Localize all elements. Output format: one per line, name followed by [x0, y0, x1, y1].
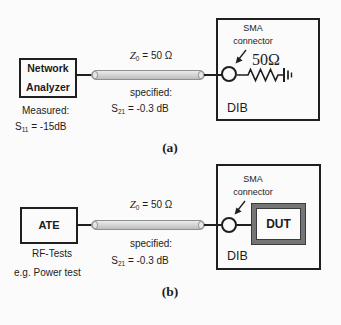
s11-value: = -15dB — [31, 121, 66, 132]
wire-ate-to-coax — [76, 224, 92, 226]
dut-label: DUT — [266, 217, 291, 231]
s11-subscript: 11 — [22, 126, 29, 133]
ate-box: ATE — [20, 207, 78, 244]
coax-cable-symbol-a — [91, 70, 205, 80]
s21-symbol-a: S — [111, 103, 118, 114]
sma-connector-symbol-b — [221, 217, 237, 233]
coax-left-ferrule-icon — [92, 71, 98, 79]
s21-subscript-b: 21 — [118, 260, 125, 267]
impedance-label-b: Z0 = 50 Ω — [120, 198, 182, 211]
figure-canvas: Network Analyzer DIB SMA connector 50Ω Z… — [0, 0, 341, 325]
network-analyzer-label-line2: Analyzer — [26, 78, 70, 97]
network-analyzer-box: Network Analyzer — [19, 58, 77, 98]
impedance-label-a: Z0 = 50 Ω — [120, 49, 182, 62]
s21-label-a: S21 = -0.3 dB — [100, 103, 180, 115]
dib-label-b: DIB — [227, 250, 248, 262]
dut-box: DUT — [252, 204, 305, 244]
resistor-and-ground-symbol — [237, 65, 297, 85]
impedance-subscript-b: 0 — [136, 204, 140, 211]
impedance-value-a: = 50 Ω — [142, 50, 172, 61]
caption-b: (b) — [148, 284, 192, 300]
coax-cable-symbol-b — [91, 220, 205, 230]
dib-label-a: DIB — [227, 102, 248, 114]
s21-value-b: = -0.3 dB — [128, 255, 169, 266]
s11-label: S11 = -15dB — [15, 121, 67, 133]
measured-label: Measured: — [22, 105, 69, 117]
impedance-value-b: = 50 Ω — [142, 199, 172, 210]
callout-arrow-icon-b — [233, 200, 247, 216]
impedance-subscript-a: 0 — [136, 55, 140, 62]
wire-coax-to-sma-b — [204, 224, 222, 226]
sma-callout-line2-a: connector — [226, 36, 280, 47]
rf-tests-label: RF-Tests — [32, 248, 72, 260]
ate-label: ATE — [38, 216, 59, 235]
sma-callout-line1-b: SMA — [238, 174, 268, 185]
specified-label-a: specified: — [120, 87, 182, 99]
sma-connector-symbol-a — [221, 66, 237, 82]
caption-a: (a) — [148, 140, 192, 156]
s21-subscript-a: 21 — [118, 108, 125, 115]
s11-symbol: S — [15, 121, 22, 132]
wire-coax-to-sma-a — [204, 74, 222, 76]
network-analyzer-label-line1: Network — [27, 59, 68, 78]
wire-analyzer-to-coax — [76, 74, 92, 76]
coax-left-ferrule-icon-b — [92, 221, 98, 229]
sma-callout-line2-b: connector — [226, 187, 280, 198]
s21-label-b: S21 = -0.3 dB — [100, 255, 180, 267]
specified-label-b: specified: — [120, 238, 182, 250]
power-test-example-label: e.g. Power test — [14, 267, 81, 279]
wire-sma-to-dut — [235, 224, 253, 226]
s21-value-a: = -0.3 dB — [128, 103, 169, 114]
s21-symbol-b: S — [111, 255, 118, 266]
sma-callout-line1-a: SMA — [238, 23, 268, 34]
